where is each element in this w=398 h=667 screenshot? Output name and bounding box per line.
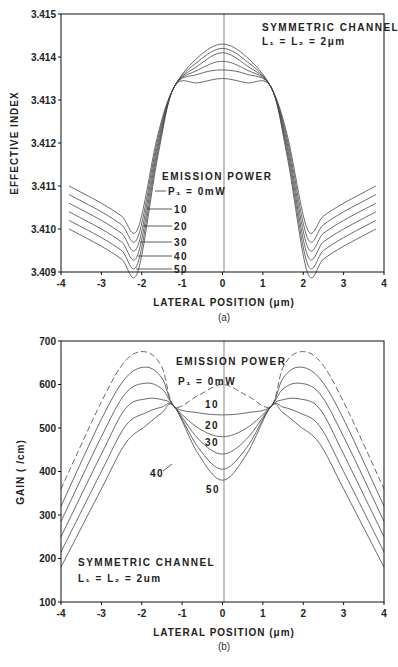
x-tick-label: 1 bbox=[260, 608, 266, 619]
panel-b-caption: (b) bbox=[218, 641, 230, 652]
panel-a-x-axis: -4-3-2-101234 bbox=[57, 272, 388, 289]
y-tick-label: 3.414 bbox=[31, 52, 56, 63]
y-tick-label: 3.409 bbox=[31, 267, 56, 278]
legend-label: P₁ = 0mW bbox=[168, 186, 226, 197]
panel-b-y-axis: 100200300400500600700 bbox=[39, 336, 61, 608]
panel-a-channel-title: SYMMETRIC CHANNEL bbox=[262, 22, 398, 33]
curve-10mw bbox=[69, 48, 376, 242]
x-tick-label: 3 bbox=[341, 278, 347, 289]
legend-leader-line bbox=[163, 464, 172, 471]
curve-40mw bbox=[69, 70, 376, 269]
panel-b-legend-title: EMISSION POWER bbox=[176, 356, 286, 367]
x-tick-label: -2 bbox=[137, 278, 146, 289]
curve-30mw bbox=[69, 61, 376, 260]
x-tick-label: 2 bbox=[300, 608, 306, 619]
x-tick-label: 4 bbox=[381, 608, 387, 619]
panel-a-curves bbox=[69, 44, 376, 278]
x-tick-label: 3 bbox=[341, 608, 347, 619]
x-tick-label: -3 bbox=[97, 278, 106, 289]
panel-a-y-label: EFFECTIVE INDEX bbox=[9, 91, 20, 194]
y-tick-label: 500 bbox=[39, 423, 56, 434]
panel-b-legend: P₁ = 0mW1020304050 bbox=[150, 376, 236, 495]
panel-a: 3.4093.4103.4113.4123.4133.4143.415 -4-3… bbox=[9, 9, 398, 324]
legend-label: 20 bbox=[174, 221, 188, 232]
curve-0mw bbox=[69, 44, 376, 233]
x-tick-label: 1 bbox=[260, 278, 266, 289]
x-tick-label: -1 bbox=[178, 608, 187, 619]
x-tick-label: 4 bbox=[381, 278, 387, 289]
panel-b: 100200300400500600700 -4-3-2-101234 GAIN… bbox=[15, 336, 387, 653]
panel-b-x-label: LATERAL POSITION (μm) bbox=[153, 627, 295, 638]
panel-a-legend-title: EMISSION POWER bbox=[162, 171, 272, 182]
panel-b-x-axis: -4-3-2-101234 bbox=[57, 602, 388, 619]
legend-label: 10 bbox=[205, 399, 219, 410]
curve-20mw bbox=[69, 53, 376, 251]
y-tick-label: 600 bbox=[39, 379, 56, 390]
legend-label: 50 bbox=[206, 484, 220, 495]
panel-b-y-label: GAIN ( /cm) bbox=[15, 439, 26, 504]
legend-label: P₁ = 0mW bbox=[178, 376, 236, 387]
panel-a-y-axis: 3.4093.4103.4113.4123.4133.4143.415 bbox=[31, 9, 61, 278]
x-tick-label: 2 bbox=[300, 278, 306, 289]
x-tick-label: -4 bbox=[57, 278, 66, 289]
legend-label: 20 bbox=[205, 420, 219, 431]
legend-label: 30 bbox=[174, 237, 188, 248]
x-tick-label: 0 bbox=[220, 278, 226, 289]
curve-50mw bbox=[61, 404, 384, 567]
x-tick-label: -2 bbox=[137, 608, 146, 619]
x-tick-label: 0 bbox=[220, 608, 226, 619]
legend-label: 50 bbox=[174, 264, 188, 275]
y-tick-label: 3.411 bbox=[32, 181, 57, 192]
y-tick-label: 3.410 bbox=[31, 224, 56, 235]
panel-b-channel-dims: L₁ = L₂ = 2um bbox=[78, 573, 162, 584]
legend-label: 40 bbox=[150, 468, 164, 479]
figure: 3.4093.4103.4113.4123.4133.4143.415 -4-3… bbox=[0, 0, 398, 667]
x-tick-label: -3 bbox=[97, 608, 106, 619]
legend-label: 30 bbox=[205, 437, 219, 448]
curve-40mw bbox=[61, 403, 384, 552]
panel-a-x-label: LATERAL POSITION (μm) bbox=[153, 297, 295, 308]
panel-a-channel-dims: L₁ = L₂ = 2μm bbox=[262, 36, 346, 47]
y-tick-label: 400 bbox=[39, 466, 56, 477]
x-tick-label: -1 bbox=[178, 278, 187, 289]
y-tick-label: 200 bbox=[39, 553, 56, 564]
x-tick-label: -4 bbox=[57, 608, 66, 619]
legend-label: 40 bbox=[174, 251, 188, 262]
y-tick-label: 300 bbox=[39, 510, 56, 521]
panel-a-caption: (a) bbox=[218, 312, 230, 323]
curve-30mw bbox=[61, 398, 384, 537]
y-tick-label: 100 bbox=[39, 597, 56, 608]
y-tick-label: 3.413 bbox=[31, 95, 56, 106]
y-tick-label: 700 bbox=[39, 336, 56, 347]
legend-label: 10 bbox=[174, 204, 188, 215]
panel-b-channel-title: SYMMETRIC CHANNEL bbox=[78, 557, 215, 568]
y-tick-label: 3.415 bbox=[31, 9, 56, 20]
y-tick-label: 3.412 bbox=[31, 138, 56, 149]
